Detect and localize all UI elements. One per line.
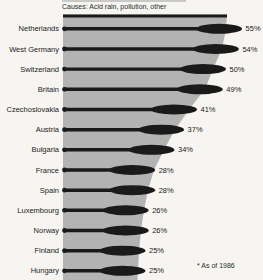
forest-damage-chart: Causes: Acid rain, pollution, other Neth…	[0, 0, 263, 280]
bar-start-cap	[62, 268, 67, 273]
country-label: Britain	[38, 85, 59, 94]
value-label: 55%	[246, 24, 261, 33]
value-label: 28%	[159, 186, 174, 195]
value-label: 54%	[242, 45, 257, 54]
bar-chart-canvas: NetherlandsWest GermanySwitzerlandBritai…	[0, 0, 263, 280]
bar-start-cap	[62, 228, 67, 233]
bar-start-cap	[62, 248, 67, 253]
country-label: Czechoslovakia	[6, 105, 59, 114]
value-label: 49%	[226, 85, 241, 94]
country-label: Switzerland	[20, 65, 59, 74]
chart-top-rule	[63, 15, 227, 18]
bar-shaft	[63, 88, 191, 91]
country-label: Finland	[34, 246, 59, 255]
bar-shaft	[63, 27, 210, 30]
country-label: Austria	[36, 125, 60, 134]
bar-start-cap	[62, 67, 67, 72]
bar-start-cap	[62, 168, 67, 173]
country-label: Netherlands	[19, 24, 60, 33]
value-label: 37%	[188, 125, 203, 134]
value-label: 26%	[152, 206, 167, 215]
country-label: Luxembourg	[17, 206, 59, 215]
value-label: 50%	[230, 65, 245, 74]
country-label: Hungary	[31, 266, 60, 275]
country-label: West Germany	[9, 45, 59, 54]
bar-start-cap	[62, 47, 67, 52]
value-label: 25%	[149, 246, 164, 255]
bar-start-cap	[62, 188, 67, 193]
bar-start-cap	[62, 107, 67, 112]
bar-shaft	[63, 108, 165, 111]
bar-start-cap	[62, 147, 67, 152]
bar-start-cap	[62, 87, 67, 92]
value-label: 41%	[201, 105, 216, 114]
value-label: 28%	[159, 166, 174, 175]
bar-start-cap	[62, 127, 67, 132]
value-label: 25%	[149, 266, 164, 275]
chart-footnote: * As of 1986	[197, 262, 235, 269]
country-label: Spain	[40, 186, 59, 195]
value-label: 34%	[178, 145, 193, 154]
bar-shaft	[63, 67, 194, 70]
country-label: Norway	[34, 226, 60, 235]
bar-start-cap	[62, 208, 67, 213]
country-label: France	[36, 166, 59, 175]
country-label: Bulgaria	[31, 145, 59, 154]
value-label: 26%	[152, 226, 167, 235]
bar-start-cap	[62, 26, 67, 31]
bar-shaft	[63, 47, 207, 50]
